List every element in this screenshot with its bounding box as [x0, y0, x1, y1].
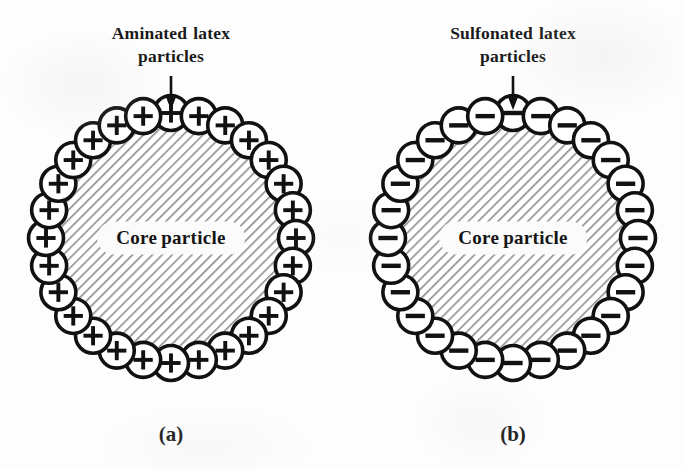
- plus-icon: [56, 283, 60, 302]
- core-label-word: Core: [116, 227, 157, 248]
- heading-word: Aminated: [112, 23, 188, 43]
- panel-b-particle-assembly: Coreparticle: [363, 88, 663, 388]
- heading-word: latex: [193, 23, 230, 43]
- minus-icon: [558, 348, 577, 352]
- heading-word: latex: [539, 23, 576, 43]
- minus-icon: [625, 208, 644, 212]
- panel-b-annotation-arrow: [504, 76, 522, 116]
- panel-a-annotation-arrow: [162, 76, 180, 116]
- panel-b-heading: Sulfonatedlatex particles: [342, 22, 684, 68]
- heading-word: particles: [138, 46, 204, 66]
- plus-icon: [282, 283, 286, 302]
- minus-icon: [382, 264, 401, 268]
- minus-icon: [476, 114, 495, 118]
- heading-word: particles: [480, 46, 546, 66]
- minus-icon: [628, 236, 647, 240]
- panel-a-core-label: Coreparticle: [97, 222, 245, 255]
- plus-icon: [47, 256, 51, 275]
- minus-icon: [503, 361, 522, 365]
- panel-a-particle-assembly: Coreparticle: [21, 88, 321, 388]
- plus-icon: [223, 116, 227, 135]
- plus-icon: [197, 107, 201, 126]
- minus-icon: [382, 208, 401, 212]
- minus-icon: [531, 358, 550, 362]
- minus-icon: [406, 158, 425, 162]
- minus-icon: [531, 114, 550, 118]
- core-label-word: particle: [503, 227, 568, 248]
- minus-icon: [406, 314, 425, 318]
- panel-b: Sulfonatedlatex particles: [342, 0, 684, 469]
- panel-b-caption: (b): [342, 422, 684, 447]
- plus-icon: [291, 201, 295, 220]
- plus-icon: [56, 174, 60, 193]
- plus-icon: [282, 174, 286, 193]
- minus-icon: [425, 334, 444, 338]
- panel-a-heading-line-2: particles: [0, 45, 342, 68]
- plus-icon: [91, 131, 95, 150]
- plus-icon: [223, 341, 227, 360]
- core-label-word: Core: [458, 227, 499, 248]
- panel-a-caption: (a): [0, 422, 342, 447]
- plus-icon: [169, 353, 173, 372]
- minus-icon: [616, 290, 635, 294]
- plus-icon: [267, 306, 271, 325]
- minus-icon: [601, 158, 620, 162]
- plus-icon: [141, 107, 145, 126]
- minus-icon: [601, 314, 620, 318]
- plus-icon: [47, 201, 51, 220]
- plus-icon: [91, 326, 95, 345]
- minus-icon: [391, 290, 410, 294]
- panel-a-heading-line-1: Aminatedlatex: [0, 22, 342, 45]
- plus-icon: [267, 150, 271, 169]
- plus-icon: [71, 150, 75, 169]
- plus-icon: [44, 228, 48, 247]
- plus-icon: [247, 326, 251, 345]
- minus-icon: [449, 123, 468, 127]
- panel-a: Aminatedlatex particles: [0, 0, 342, 469]
- figure-panels: Aminatedlatex particles: [0, 0, 684, 469]
- plus-icon: [115, 116, 119, 135]
- minus-icon: [449, 348, 468, 352]
- plus-icon: [294, 228, 298, 247]
- plus-icon: [291, 256, 295, 275]
- plus-icon: [247, 131, 251, 150]
- plus-icon: [115, 341, 119, 360]
- minus-icon: [625, 264, 644, 268]
- minus-icon: [476, 358, 495, 362]
- minus-icon: [378, 236, 397, 240]
- panel-b-heading-line-2: particles: [342, 45, 684, 68]
- minus-icon: [581, 334, 600, 338]
- panel-b-heading-line-1: Sulfonatedlatex: [342, 22, 684, 45]
- plus-icon: [71, 306, 75, 325]
- core-label-word: particle: [161, 227, 226, 248]
- minus-icon: [558, 123, 577, 127]
- panel-b-core-label: Coreparticle: [439, 222, 587, 255]
- panel-a-heading: Aminatedlatex particles: [0, 22, 342, 68]
- shell-particle: [468, 99, 503, 134]
- plus-icon: [141, 350, 145, 369]
- minus-icon: [425, 138, 444, 142]
- minus-icon: [391, 182, 410, 186]
- minus-icon: [616, 182, 635, 186]
- shell-particle: [126, 99, 161, 134]
- heading-word: Sulfonated: [450, 23, 533, 43]
- minus-icon: [581, 138, 600, 142]
- plus-icon: [197, 350, 201, 369]
